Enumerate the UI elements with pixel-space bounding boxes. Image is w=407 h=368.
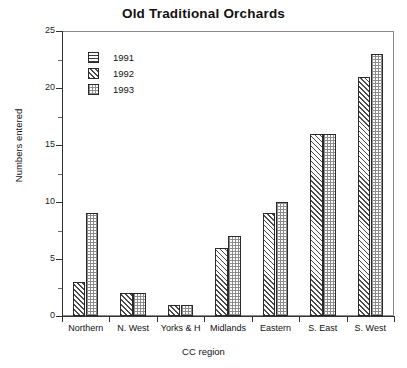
bar-eastern-1993 bbox=[276, 202, 289, 316]
legend-swatch-1992 bbox=[88, 68, 99, 79]
bar-midlands-1992 bbox=[215, 248, 228, 316]
y-axis-line bbox=[62, 31, 63, 317]
bar-northern-1992 bbox=[73, 282, 86, 316]
x-tick bbox=[394, 317, 395, 322]
y-tick-label: 5 bbox=[15, 254, 55, 263]
x-tick bbox=[299, 317, 300, 322]
x-tick bbox=[157, 317, 158, 322]
bar-n-west-1993 bbox=[133, 293, 146, 316]
x-axis-line bbox=[62, 316, 395, 317]
legend: 199119921993 bbox=[88, 49, 134, 97]
y-tick-label: 25 bbox=[15, 26, 55, 35]
bar-eastern-1992 bbox=[263, 213, 276, 316]
y-tick-major bbox=[56, 259, 62, 260]
bar-s-east-1993 bbox=[323, 134, 336, 316]
legend-item-1993: 1993 bbox=[88, 81, 134, 97]
legend-label: 1992 bbox=[113, 68, 134, 79]
x-tick bbox=[252, 317, 253, 322]
legend-item-1991: 1991 bbox=[88, 49, 134, 65]
legend-label: 1991 bbox=[113, 52, 134, 63]
x-axis-title: CC region bbox=[0, 346, 407, 357]
y-tick-minor bbox=[58, 288, 62, 289]
x-tick bbox=[62, 317, 63, 322]
legend-item-1992: 1992 bbox=[88, 65, 134, 81]
bar-yorks-h-1993 bbox=[181, 305, 194, 316]
legend-swatch-1993 bbox=[88, 84, 99, 95]
bar-s-east-1992 bbox=[310, 134, 323, 316]
legend-swatch-1991 bbox=[88, 52, 99, 63]
bar-s-west-1992 bbox=[358, 77, 371, 316]
bar-northern-1993 bbox=[86, 213, 99, 316]
bar-yorks-h-1992 bbox=[168, 305, 181, 316]
x-tick bbox=[109, 317, 110, 322]
chart-title: Old Traditional Orchards bbox=[0, 6, 407, 21]
bar-chart: Old Traditional Orchards 0510152025 Numb… bbox=[0, 0, 407, 368]
x-tick-label: S. West bbox=[330, 323, 407, 333]
y-tick-major bbox=[56, 88, 62, 89]
legend-label: 1993 bbox=[113, 84, 134, 95]
bar-midlands-1993 bbox=[228, 236, 241, 316]
bar-s-west-1993 bbox=[371, 54, 384, 316]
x-tick bbox=[204, 317, 205, 322]
y-tick-minor bbox=[58, 174, 62, 175]
y-tick-major bbox=[56, 145, 62, 146]
x-tick bbox=[347, 317, 348, 322]
bar-n-west-1992 bbox=[120, 293, 133, 316]
y-tick-minor bbox=[58, 60, 62, 61]
y-axis-title: Numbers entered bbox=[13, 86, 24, 206]
y-tick-label: 0 bbox=[15, 311, 55, 320]
y-tick-major bbox=[56, 202, 62, 203]
y-tick-minor bbox=[58, 231, 62, 232]
y-tick-major bbox=[56, 31, 62, 32]
y-tick-minor bbox=[58, 117, 62, 118]
